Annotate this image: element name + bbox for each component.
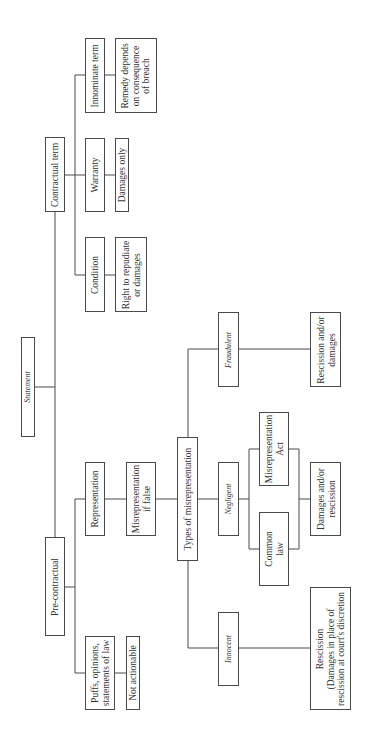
warranty-label: Warranty — [90, 157, 101, 192]
innominate-outcome-node: Remedy depends on consequence of breach — [115, 38, 157, 113]
negligent-outcome-label: Damages and/or rescission — [315, 468, 336, 530]
fraudulent-label: Fraudulent — [223, 332, 234, 368]
types-of-misrepresentation-label: Types of misrepresentation — [182, 448, 193, 551]
warranty-outcome-node: Damages only — [115, 138, 129, 212]
warranty-node: Warranty — [85, 138, 105, 212]
pre-contractual-node: Pre-contractual — [45, 537, 65, 636]
contractual-term-node: Contractual term — [45, 137, 65, 212]
innominate-term-node: Innominate term — [85, 38, 105, 113]
fraudulent-outcome-label: Rescission and/or damages — [315, 316, 336, 383]
condition-outcome-node: Right to repudiate or damages — [115, 237, 147, 312]
statement-label: Statement — [23, 371, 34, 403]
misrepresentation-act-node: Misrepresentation Act — [259, 412, 289, 486]
misrepresentation-if-false-node: Misrepresentation if false — [126, 462, 156, 536]
representation-label: Representation — [90, 471, 101, 528]
statement-node: Statement — [21, 337, 35, 437]
misrepresentation-if-false-label: Misrepresentation if false — [131, 465, 152, 534]
contractual-term-label: Contractual term — [50, 142, 61, 206]
condition-label: Condition — [90, 255, 101, 293]
common-law-node: Common law — [259, 512, 289, 586]
pre-contractual-label: Pre-contractual — [50, 557, 61, 615]
negligent-node: Negligent — [218, 462, 239, 536]
puffs-label: Puffs, opinions, statements of law — [90, 640, 111, 706]
fraudulent-node: Fraudulent — [218, 312, 239, 387]
innocent-label: Innocent — [223, 635, 234, 663]
not-actionable-node: Not actionable — [126, 636, 140, 710]
warranty-outcome-label: Damages only — [117, 148, 128, 203]
condition-node: Condition — [85, 237, 105, 312]
types-of-misrepresentation-node: Types of misrepresentation — [177, 437, 198, 561]
puffs-node: Puffs, opinions, statements of law — [85, 636, 115, 710]
innominate-outcome-label: Remedy depends on consequence of breach — [120, 43, 152, 108]
misrepresentation-act-label: Misrepresentation Act — [264, 415, 285, 484]
common-law-label: Common law — [264, 531, 285, 566]
innocent-outcome-label: Rescission (Damages in place of rescissi… — [315, 592, 347, 706]
innominate-term-label: Innominate term — [90, 44, 101, 107]
condition-outcome-label: Right to repudiate or damages — [121, 240, 142, 309]
negligent-outcome-node: Damages and/or rescission — [310, 462, 341, 536]
innocent-node: Innocent — [218, 612, 239, 686]
negligent-label: Negligent — [223, 483, 234, 514]
innocent-outcome-node: Rescission (Damages in place of rescissi… — [310, 587, 351, 710]
fraudulent-outcome-node: Rescission and/or damages — [310, 312, 341, 387]
not-actionable-label: Not actionable — [128, 645, 139, 701]
representation-node: Representation — [85, 462, 105, 536]
